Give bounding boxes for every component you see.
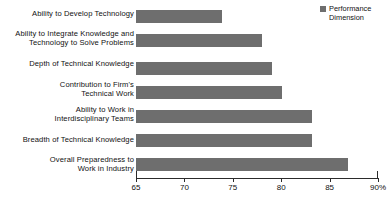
x-tick-label-3: 80	[277, 183, 286, 192]
plot-area	[136, 0, 378, 178]
legend-label: Performance Dimension	[329, 4, 371, 22]
category-label-5: Breadth of Technical Knowledge	[0, 135, 134, 144]
x-axis-line	[136, 178, 378, 179]
bar-5	[136, 134, 312, 147]
category-label-0: Ability to Develop Technology	[0, 9, 134, 18]
bar-3	[136, 86, 282, 99]
category-label-3: Contribution to Firm's Technical Work	[0, 80, 134, 98]
category-label-6: Overall Preparedness to Work in Industry	[0, 155, 134, 173]
bar-1	[136, 34, 262, 47]
bar-chart: Ability to Develop Technology Ability to…	[0, 0, 392, 208]
x-tick-2	[233, 178, 234, 182]
x-tick-label-5: 90%	[370, 183, 386, 192]
legend: Performance Dimension	[320, 4, 371, 22]
x-tick-4	[330, 178, 331, 182]
bar-6	[136, 158, 348, 171]
x-tick-1	[184, 178, 185, 182]
category-label-1: Ability to Integrate Knowledge and Techn…	[0, 29, 134, 47]
category-label-2: Depth of Technical Knowledge	[0, 59, 134, 68]
x-tick-label-1: 70	[180, 183, 189, 192]
x-tick-label-4: 85	[325, 183, 334, 192]
bar-4	[136, 110, 312, 123]
bar-0	[136, 10, 222, 23]
x-tick-label-0: 65	[132, 183, 141, 192]
category-label-4: Ability to Work in Interdisciplinary Tea…	[0, 105, 134, 123]
legend-swatch-performance-dimension	[320, 6, 326, 12]
x-tick-3	[281, 178, 282, 182]
bar-2	[136, 62, 272, 75]
x-tick-5	[378, 178, 379, 182]
x-tick-0	[136, 178, 137, 182]
x-tick-label-2: 75	[228, 183, 237, 192]
